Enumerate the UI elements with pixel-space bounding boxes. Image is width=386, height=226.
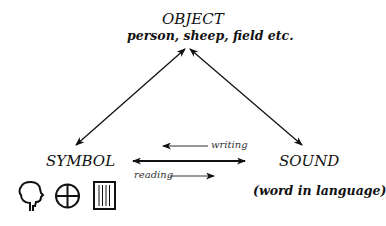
head-silhouette-icon: [20, 182, 44, 211]
edge-sound-object: [190, 49, 302, 145]
ruled-rectangle-icon: [94, 182, 115, 209]
sound-title: SOUND: [279, 152, 339, 170]
sound-subtitle: (word in language): [253, 183, 386, 198]
object-title: OBJECT: [162, 10, 224, 28]
symbol-title: SYMBOL: [46, 152, 115, 170]
reading-label: reading: [134, 169, 173, 180]
object-subtitle: person, sheep, field etc.: [127, 28, 294, 43]
edge-symbol-object: [76, 49, 185, 145]
writing-label: writing: [211, 139, 248, 150]
circle-cross-icon: [56, 185, 79, 208]
